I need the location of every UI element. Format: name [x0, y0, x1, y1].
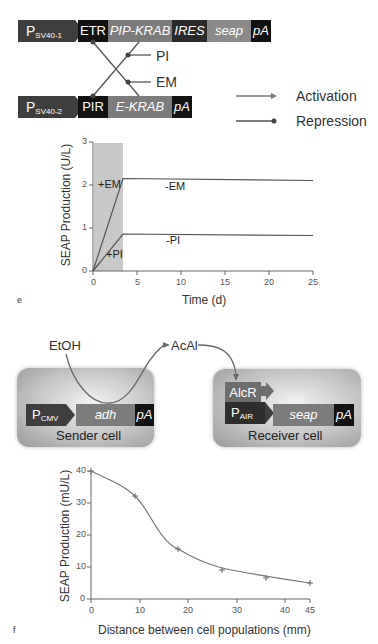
chart-f-ylabel: SEAP Production (mU/L)	[58, 461, 72, 611]
ytick-30: 30	[76, 497, 86, 507]
ytick-40: 40	[76, 465, 86, 475]
ytick-0-f: 0	[80, 593, 85, 603]
chart-f-xlabel: Distance between cell populations (mm)	[98, 623, 311, 637]
xtick-20-f: 20	[183, 605, 193, 615]
chart-f-plot	[0, 0, 378, 644]
xtick-40-f: 40	[280, 605, 290, 615]
ytick-10: 10	[76, 561, 86, 571]
panel-label-f: f	[13, 625, 16, 635]
xtick-45-f: 45	[305, 605, 315, 615]
xtick-10-f: 10	[135, 605, 145, 615]
ytick-20: 20	[76, 529, 86, 539]
xtick-0-f: 0	[89, 605, 94, 615]
xtick-30-f: 30	[232, 605, 242, 615]
